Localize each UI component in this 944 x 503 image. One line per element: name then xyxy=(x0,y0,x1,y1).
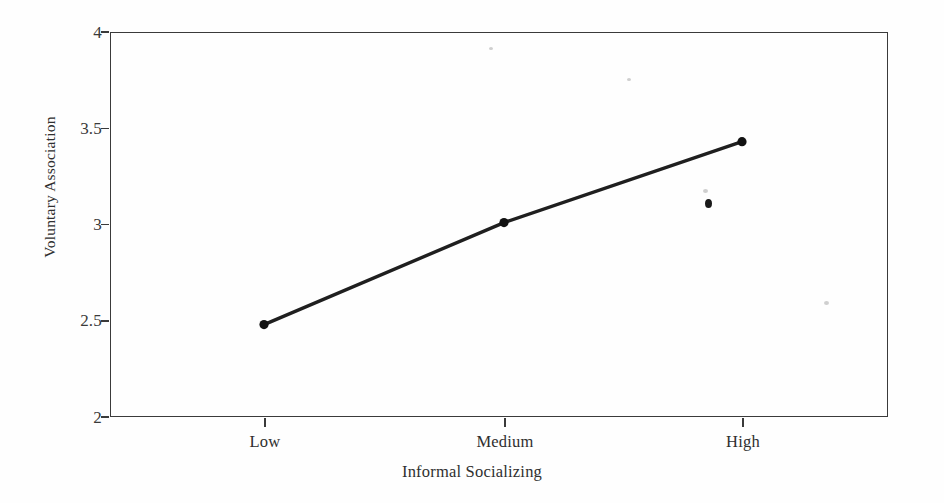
y-tick-mark-2 xyxy=(101,416,109,418)
x-axis-title: Informal Socializing xyxy=(0,462,944,482)
y-tick-mark-2-5 xyxy=(101,320,109,322)
y-tick-label-3-5: 3.5 xyxy=(80,120,102,137)
y-tick-mark-3-5 xyxy=(101,128,109,130)
x-tick-label-medium: Medium xyxy=(425,432,585,452)
plot-frame xyxy=(110,32,888,417)
figure-canvas: 4 3.5 3 2.5 2 Voluntary Association Low … xyxy=(0,0,944,503)
faint-speck-artifact-1 xyxy=(703,189,708,193)
y-axis: 4 3.5 3 2.5 2 xyxy=(56,0,102,503)
x-tick-mark-medium xyxy=(504,418,506,427)
ink-speck-artifact xyxy=(705,199,712,208)
faint-speck-artifact-2 xyxy=(824,301,829,305)
faint-speck-artifact-4 xyxy=(627,78,631,81)
x-tick-mark-high xyxy=(742,418,744,427)
y-tick-mark-4 xyxy=(101,31,109,33)
y-axis-title: Voluntary Association xyxy=(41,77,59,297)
faint-speck-artifact-3 xyxy=(489,47,493,50)
y-tick-mark-3 xyxy=(101,224,109,226)
y-tick-label-2-5: 2.5 xyxy=(80,312,102,329)
x-tick-label-high: High xyxy=(663,432,823,452)
x-tick-label-low: Low xyxy=(185,432,345,452)
x-tick-mark-low xyxy=(264,418,266,427)
